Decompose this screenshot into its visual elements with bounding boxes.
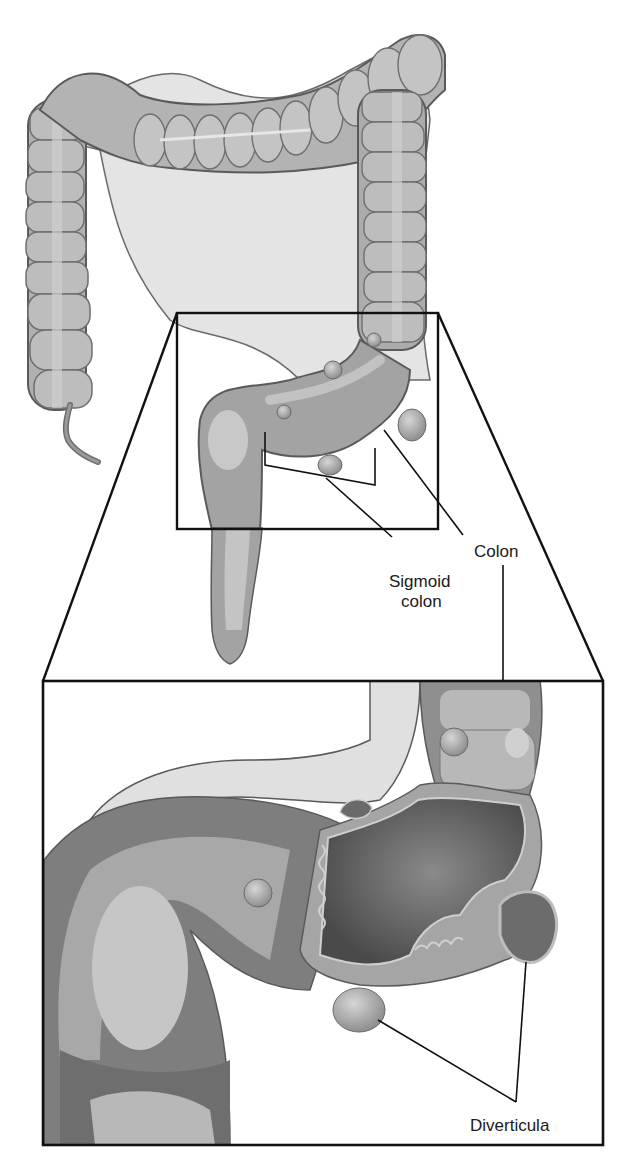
descending-colon	[358, 90, 426, 350]
inset-panel	[43, 680, 603, 1145]
rectum	[211, 528, 262, 664]
label-diverticula: Diverticula	[470, 1116, 550, 1135]
label-sigmoid-line1: Sigmoid	[389, 572, 450, 591]
label-colon: Colon	[474, 542, 518, 561]
ascending-colon	[26, 100, 98, 462]
diverticulum-bulge	[333, 988, 385, 1032]
overview-illustration	[26, 35, 445, 664]
diverticulum-pouch	[500, 892, 557, 963]
colon-diagram: Colon Sigmoid colon	[0, 0, 630, 1173]
label-sigmoid-line2: colon	[401, 592, 442, 611]
zoom-connector-right	[438, 313, 603, 681]
